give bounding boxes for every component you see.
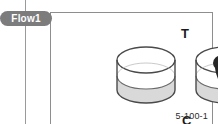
figure-id-label: 5-100-1 bbox=[176, 112, 208, 121]
figure-screenshot: T C 5-100-1 bbox=[0, 0, 218, 124]
flow-tab-label: Flow1 bbox=[11, 14, 40, 24]
flow-tab[interactable]: Flow1 bbox=[0, 11, 52, 26]
figure-frame: T C 5-100-1 bbox=[50, 12, 213, 124]
left-vessel-rim bbox=[117, 47, 175, 73]
right-vessel-illustration bbox=[194, 46, 218, 110]
left-vessel-illustration bbox=[115, 46, 177, 110]
marker-label-top: T bbox=[181, 27, 189, 40]
